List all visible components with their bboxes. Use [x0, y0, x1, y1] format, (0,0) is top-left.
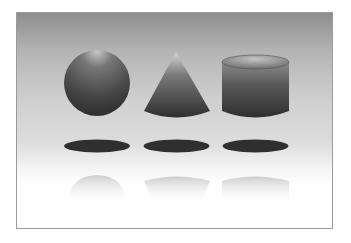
cylinder-reflection — [222, 177, 289, 206]
cone-shadow — [144, 140, 210, 153]
scene-canvas — [0, 0, 351, 243]
sphere-reflection — [68, 175, 126, 205]
cylinder-shape — [222, 55, 289, 118]
sphere-shadow — [64, 140, 130, 153]
cylinder-shadow — [223, 140, 289, 153]
cone-shape — [144, 52, 210, 118]
cone-reflection — [144, 177, 210, 206]
sphere-shape — [64, 50, 130, 116]
